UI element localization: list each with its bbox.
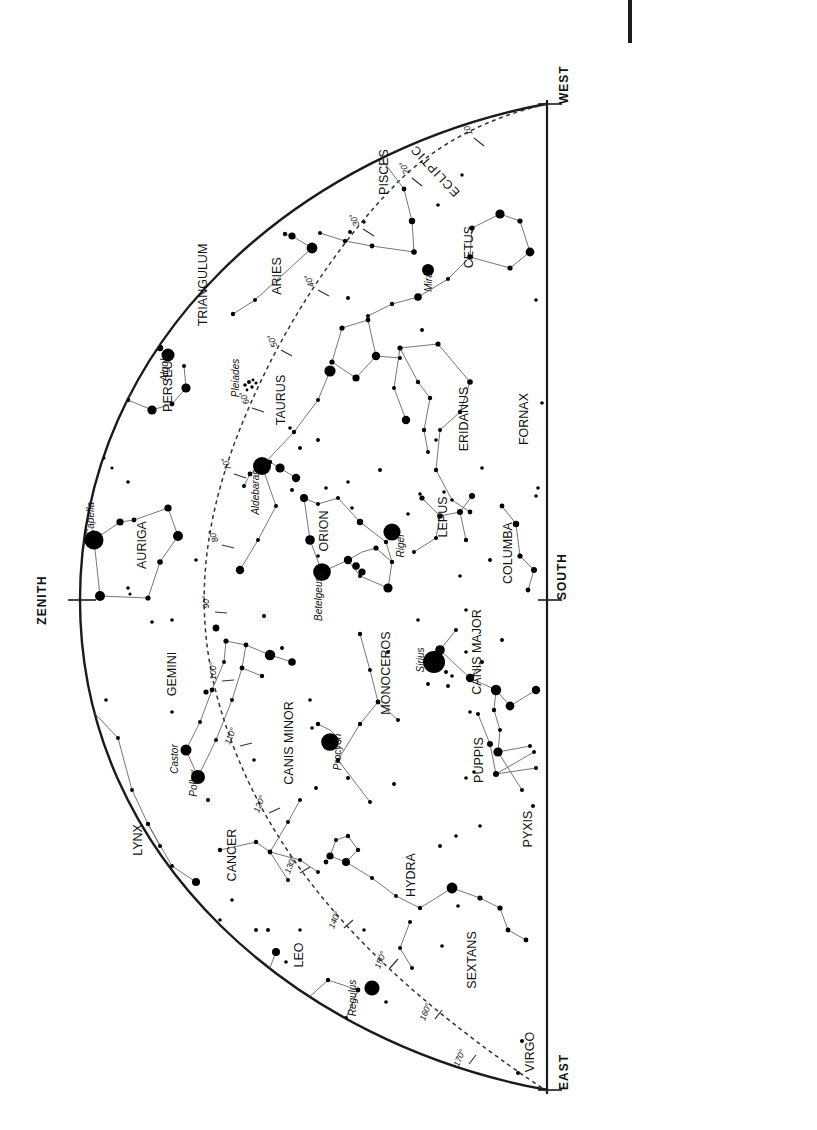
star-chart-page: PISCESCETUSARIESTRIANGULUMPERSEUSTAURUSA… — [0, 0, 817, 1130]
star-label-castor: Castor — [169, 744, 180, 774]
star-label-pleiades: Pleiades — [230, 359, 241, 397]
ecliptic-tick-120°: 120° — [251, 793, 267, 814]
zenith-label: ZENITH — [35, 575, 49, 624]
star-label-mira: Mira — [423, 272, 434, 292]
constellation-label-cetus: CETUS — [462, 226, 476, 268]
east-label: EAST — [557, 1054, 571, 1090]
ecliptic-path — [204, 104, 548, 1092]
ecliptic-tick-30°: 30° — [347, 212, 361, 228]
star-label-procyon: Procyon — [332, 733, 343, 770]
constellation-label-pisces: PISCES — [377, 149, 391, 195]
ecliptic-tick-100°: 100° — [208, 662, 218, 680]
ecliptic-tick-70°: 70° — [219, 456, 233, 472]
star-label-betelgeuse: Betelgeuse — [313, 571, 324, 621]
ecliptic-tick-marks — [215, 138, 484, 1064]
star-regulus — [364, 980, 379, 995]
constellation-label-canis-minor: CANIS MINOR — [282, 701, 296, 784]
ecliptic-tick-90°: 90° — [201, 595, 211, 609]
constellation-label-canis-major: CANIS MAJOR — [470, 609, 484, 694]
constellation-label-auriga: AURIGA — [135, 520, 149, 569]
sky-chart-svg: PISCESCETUSARIESTRIANGULUMPERSEUSTAURUSA… — [0, 0, 817, 1130]
constellation-label-lepus: LEPUS — [436, 497, 450, 538]
constellation-label-pyxis: PYXIS — [521, 811, 535, 848]
constellation-label-orion: ORION — [317, 511, 331, 552]
star-label-algol: Algol — [159, 358, 170, 382]
constellation-label-triangulum: TRIANGULUM — [196, 244, 210, 327]
ecliptic-tick-20°: 20° — [397, 160, 412, 177]
south-label: SOUTH — [555, 553, 569, 600]
ecliptic-tick-110°: 110° — [222, 726, 238, 746]
ecliptic-tick-170°: 170° — [451, 1047, 467, 1068]
constellation-label-taurus: TAURUS — [274, 375, 288, 425]
constellation-label-aries: ARIES — [270, 257, 284, 295]
ecliptic-tick-40°: 40° — [302, 273, 316, 289]
constellation-label-hydra: HYDRA — [404, 852, 418, 896]
constellation-label-virgo: VIRGO — [523, 1032, 537, 1073]
constellation-label-leo: LEO — [292, 942, 306, 967]
ecliptic-tick-50°: 50° — [265, 333, 279, 349]
constellation-label-columba: COLUMBA — [501, 521, 515, 583]
constellation-label-gemini: GEMINI — [165, 652, 179, 696]
constellation-label-eridanus: ERIDANUS — [457, 387, 471, 452]
star-label-aldebaran: Aldebaran — [250, 469, 261, 516]
constellation-label-fornax: FORNAX — [517, 392, 531, 445]
constellation-label-cancer: CANCER — [225, 829, 239, 882]
constellation-label-sextans: SEXTANS — [465, 931, 479, 988]
constellation-label-monoceros: MONOCEROS — [379, 631, 393, 714]
ecliptic-tick-140°: 140° — [326, 909, 342, 930]
ecliptic-tick-80°: 80° — [206, 528, 220, 544]
star-label-regulus: Regulus — [347, 980, 358, 1017]
constellation-label-puppis: PUPPIS — [472, 737, 486, 783]
ecliptic-tick-160°: 160° — [417, 1001, 433, 1022]
star-label-capella: Capella — [85, 502, 96, 536]
top-crop-mark — [628, 0, 632, 43]
star-castor — [181, 745, 192, 756]
constellation-label-lynx: LYNX — [131, 823, 145, 855]
ecliptic-label: ECLIPTIC — [407, 142, 462, 200]
star-label-rigel: Rigel — [395, 534, 406, 558]
ecliptic-tick-130°: 130° — [282, 854, 298, 875]
west-label: WEST — [557, 65, 571, 104]
star-label-sirius: Sirius — [415, 647, 426, 672]
star-label-pollux: Pollux — [188, 768, 199, 796]
ecliptic-tick-150°: 150° — [372, 949, 388, 970]
